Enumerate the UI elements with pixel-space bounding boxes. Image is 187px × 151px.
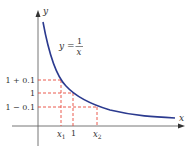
y-tick-lower: 1 − 0.1 xyxy=(5,103,35,112)
x-axis-arrow-icon xyxy=(178,124,185,129)
curve-one-over-x xyxy=(43,22,175,118)
function-label: y = 1 x xyxy=(58,37,83,57)
y-axis-arrow-icon xyxy=(36,10,41,17)
x-tick-x1: x1 xyxy=(57,129,66,140)
y-tick-one: 1 xyxy=(30,89,35,98)
function-lhs: y = xyxy=(58,41,75,51)
y-tick-upper: 1 + 0.1 xyxy=(5,76,35,85)
function-numerator: 1 xyxy=(77,37,82,46)
hyperbola-diagram: y x y = 1 x 1 + 0.1 1 1 − 0.1 x1 1 x2 xyxy=(0,0,187,151)
y-axis-label: y xyxy=(42,6,49,16)
x-axis-label: x xyxy=(179,113,184,123)
function-denominator: x xyxy=(77,47,82,57)
x-tick-one: 1 xyxy=(71,129,76,138)
axes xyxy=(12,10,185,146)
x-tick-x2: x2 xyxy=(93,129,102,140)
